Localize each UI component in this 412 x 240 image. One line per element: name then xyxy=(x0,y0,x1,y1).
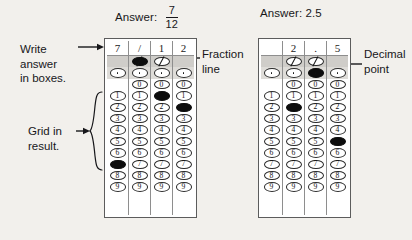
decimal-point-bubble[interactable] xyxy=(308,68,324,77)
digit-cell[interactable]: 5 xyxy=(305,136,326,147)
digit-cell[interactable]: 5 xyxy=(151,136,172,147)
digit-bubble-5[interactable]: 5 xyxy=(176,137,192,146)
fraction-line-row-cell[interactable] xyxy=(305,56,326,67)
digit-cell[interactable]: 8 xyxy=(305,170,326,181)
digit-bubble-1[interactable]: 1 xyxy=(110,91,126,100)
decimal-point-row-cell[interactable] xyxy=(283,67,304,78)
digit-cell[interactable]: 1 xyxy=(151,90,172,101)
digit-bubble-1[interactable]: 1 xyxy=(264,91,280,100)
digit-cell[interactable]: 8 xyxy=(129,170,150,181)
digit-cell[interactable]: 0 xyxy=(261,79,282,90)
digit-cell[interactable]: 2 xyxy=(173,102,194,113)
digit-cell[interactable]: 1 xyxy=(129,90,150,101)
write-in-box[interactable]: 5 xyxy=(327,41,348,56)
digit-bubble-9[interactable]: 9 xyxy=(286,182,302,191)
write-in-box[interactable]: 7 xyxy=(107,41,128,56)
digit-bubble-3[interactable]: 3 xyxy=(330,114,346,123)
digit-cell[interactable]: 5 xyxy=(327,136,348,147)
digit-cell[interactable]: 1 xyxy=(283,90,304,101)
digit-bubble-5[interactable]: 5 xyxy=(110,137,126,146)
digit-bubble-9[interactable]: 9 xyxy=(330,182,346,191)
digit-cell[interactable]: 6 xyxy=(129,147,150,158)
digit-cell[interactable]: 9 xyxy=(151,181,172,192)
digit-bubble-3[interactable]: 3 xyxy=(286,114,302,123)
digit-bubble-9[interactable]: 9 xyxy=(132,182,148,191)
digit-bubble-5[interactable]: 5 xyxy=(132,137,148,146)
digit-cell[interactable]: 0 xyxy=(129,79,150,90)
decimal-point-row-cell[interactable] xyxy=(173,67,194,78)
digit-bubble-8[interactable]: 8 xyxy=(110,171,126,180)
digit-bubble-6[interactable]: 6 xyxy=(308,148,324,157)
digit-cell[interactable]: 2 xyxy=(129,102,150,113)
decimal-answer-grid[interactable]: 012345678920123456789.012345678950123456… xyxy=(258,38,351,218)
digit-bubble-6[interactable]: 6 xyxy=(132,148,148,157)
fraction-line-row-cell[interactable] xyxy=(283,56,304,67)
decimal-point-row-cell[interactable] xyxy=(261,67,282,78)
digit-bubble-6[interactable]: 6 xyxy=(286,148,302,157)
digit-bubble-0[interactable]: 0 xyxy=(286,80,302,89)
digit-cell[interactable]: 8 xyxy=(283,170,304,181)
digit-cell[interactable]: 9 xyxy=(173,181,194,192)
digit-bubble-2[interactable]: 2 xyxy=(176,103,192,112)
digit-cell[interactable]: 3 xyxy=(129,113,150,124)
digit-bubble-7[interactable]: 7 xyxy=(264,160,280,169)
fraction-line-bubble[interactable] xyxy=(132,57,148,66)
digit-cell[interactable]: 1 xyxy=(327,90,348,101)
fraction-line-bubble[interactable] xyxy=(154,57,170,66)
digit-cell[interactable]: 8 xyxy=(327,170,348,181)
digit-bubble-2[interactable]: 2 xyxy=(110,103,126,112)
decimal-point-row-cell[interactable] xyxy=(129,67,150,78)
digit-bubble-7[interactable]: 7 xyxy=(308,160,324,169)
decimal-point-row-cell[interactable] xyxy=(305,67,326,78)
digit-bubble-7[interactable]: 7 xyxy=(286,160,302,169)
digit-cell[interactable]: 5 xyxy=(107,136,128,147)
digit-cell[interactable]: 4 xyxy=(151,124,172,135)
digit-bubble-6[interactable]: 6 xyxy=(154,148,170,157)
digit-cell[interactable]: 1 xyxy=(107,90,128,101)
digit-bubble-7[interactable]: 7 xyxy=(176,160,192,169)
digit-cell[interactable]: 9 xyxy=(327,181,348,192)
digit-bubble-6[interactable]: 6 xyxy=(330,148,346,157)
fraction-line-row-cell[interactable] xyxy=(261,56,282,67)
digit-cell[interactable]: 9 xyxy=(129,181,150,192)
digit-cell[interactable]: 2 xyxy=(327,102,348,113)
digit-bubble-8[interactable]: 8 xyxy=(132,171,148,180)
digit-bubble-8[interactable]: 8 xyxy=(308,171,324,180)
digit-bubble-6[interactable]: 6 xyxy=(176,148,192,157)
digit-bubble-6[interactable]: 6 xyxy=(110,148,126,157)
digit-cell[interactable]: 6 xyxy=(173,147,194,158)
decimal-point-bubble[interactable] xyxy=(330,68,346,77)
digit-cell[interactable]: 3 xyxy=(107,113,128,124)
digit-cell[interactable]: 4 xyxy=(173,124,194,135)
digit-bubble-4[interactable]: 4 xyxy=(110,125,126,134)
digit-cell[interactable]: 0 xyxy=(305,79,326,90)
digit-cell[interactable]: 7 xyxy=(261,159,282,170)
digit-bubble-4[interactable]: 4 xyxy=(132,125,148,134)
digit-cell[interactable]: 1 xyxy=(173,90,194,101)
digit-cell[interactable]: 3 xyxy=(173,113,194,124)
digit-bubble-0[interactable]: 0 xyxy=(154,80,170,89)
digit-bubble-8[interactable]: 8 xyxy=(154,171,170,180)
digit-bubble-2[interactable]: 2 xyxy=(264,103,280,112)
decimal-point-bubble[interactable] xyxy=(132,68,148,77)
digit-cell[interactable]: 6 xyxy=(151,147,172,158)
digit-cell[interactable]: 6 xyxy=(261,147,282,158)
digit-cell[interactable]: 1 xyxy=(261,90,282,101)
write-in-box[interactable]: 2 xyxy=(283,41,304,56)
decimal-point-row-cell[interactable] xyxy=(107,67,128,78)
digit-cell[interactable]: 8 xyxy=(261,170,282,181)
digit-bubble-8[interactable]: 8 xyxy=(176,171,192,180)
decimal-point-bubble[interactable] xyxy=(154,68,170,77)
write-in-box[interactable]: 1 xyxy=(151,41,172,56)
digit-cell[interactable]: 8 xyxy=(151,170,172,181)
digit-bubble-4[interactable]: 4 xyxy=(286,125,302,134)
digit-cell[interactable]: 4 xyxy=(327,124,348,135)
digit-cell[interactable]: 7 xyxy=(173,159,194,170)
digit-cell[interactable]: 4 xyxy=(107,124,128,135)
digit-cell[interactable]: 7 xyxy=(283,159,304,170)
decimal-point-row-cell[interactable] xyxy=(151,67,172,78)
digit-bubble-9[interactable]: 9 xyxy=(308,182,324,191)
fraction-line-bubble[interactable] xyxy=(308,57,324,66)
digit-cell[interactable]: 4 xyxy=(129,124,150,135)
digit-bubble-5[interactable]: 5 xyxy=(308,137,324,146)
